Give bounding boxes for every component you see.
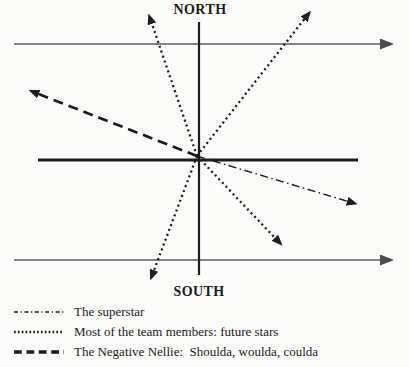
legend-item-negative-nellie: The Negative Nellie: Shoulda, woulda, co… (13, 342, 318, 362)
north-label: NORTH (174, 2, 227, 18)
legend: The superstar Most of the team members: … (13, 302, 318, 362)
dashed-line-icon (13, 346, 65, 358)
dotted-line-icon (13, 326, 65, 338)
legend-label-superstar: The superstar (74, 302, 144, 322)
legend-label-negative-nellie: The Negative Nellie: Shoulda, woulda, co… (74, 342, 318, 362)
south-label: SOUTH (173, 284, 224, 300)
future-star-ray-down-left (153, 156, 197, 273)
future-star-ray-up-right (197, 17, 306, 156)
negative-nellie-ray (36, 93, 197, 156)
dashdot-line-icon (13, 306, 65, 318)
future-star-ray-up-left (151, 21, 197, 156)
legend-item-superstar: The superstar (13, 302, 318, 322)
future-star-ray-down-right (197, 156, 277, 240)
legend-label-future-stars: Most of the team members: future stars (74, 322, 278, 342)
legend-item-future-stars: Most of the team members: future stars (13, 322, 318, 342)
diagram-canvas: NORTH SOUTH The superstar Most of the te… (0, 0, 409, 367)
